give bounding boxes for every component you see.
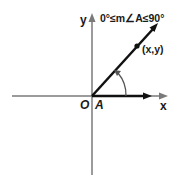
initial-side-arrow-icon <box>143 93 152 100</box>
y-axis-label: y <box>80 14 87 26</box>
angle-diagram <box>0 0 178 184</box>
y-axis-arrow-icon <box>89 13 96 22</box>
angle-range-title: 0°≤m∠A≤90° <box>100 13 164 24</box>
point-marker <box>134 43 139 48</box>
x-axis-label: x <box>160 100 167 112</box>
point-label: (x,y) <box>142 44 164 55</box>
angle-label: A <box>95 99 104 111</box>
origin-label: O <box>80 99 89 111</box>
angle-arc <box>114 70 126 96</box>
